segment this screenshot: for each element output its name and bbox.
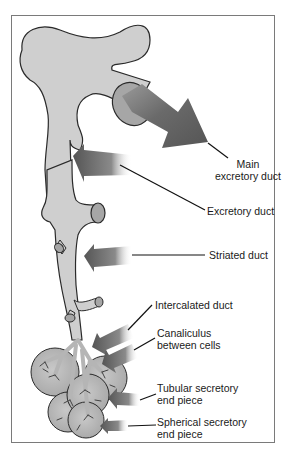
- label-main-line1: Main: [208, 158, 283, 170]
- label-canaliculus-line1: Canaliculus: [157, 327, 221, 339]
- label-striated-duct: Striated duct: [209, 249, 268, 261]
- leader-spherical: [128, 425, 156, 426]
- label-main-excretory-duct: Main excretory duct: [208, 158, 283, 182]
- striated-duct-arrow: [84, 244, 132, 272]
- label-canaliculus-line2: between cells: [157, 339, 221, 351]
- duct-diagram: [0, 0, 283, 449]
- label-intercalated-duct: Intercalated duct: [155, 299, 233, 311]
- leader-main-excretory: [208, 143, 228, 158]
- label-excretory-duct: Excretory duct: [207, 205, 274, 217]
- label-tubular-line2: end piece: [157, 394, 238, 406]
- label-spherical-end-piece: Spherical secretory end piece: [157, 416, 247, 440]
- label-spherical-line1: Spherical secretory: [157, 416, 247, 428]
- label-main-line2: excretory duct: [208, 170, 283, 182]
- leader-tubular: [140, 394, 156, 400]
- label-canaliculus: Canaliculus between cells: [157, 327, 221, 351]
- leader-canaliculus: [134, 338, 155, 350]
- label-tubular-line1: Tubular secretory: [157, 382, 238, 394]
- excretory-duct-arrow: [73, 144, 132, 182]
- label-tubular-end-piece: Tubular secretory end piece: [157, 382, 238, 406]
- leader-excretory: [120, 165, 205, 210]
- leader-intercalated: [128, 305, 152, 330]
- label-spherical-line2: end piece: [157, 428, 247, 440]
